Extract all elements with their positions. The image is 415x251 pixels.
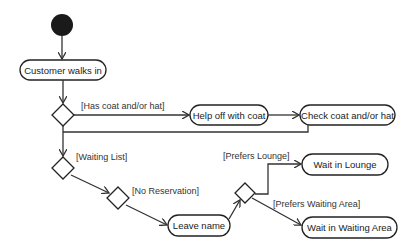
activity-label: Customer walks in — [24, 65, 102, 76]
decision-node-waiting-list — [52, 157, 74, 179]
activity-leave-name: Leave name — [168, 215, 230, 236]
edge-decision-2-to-decision-3 — [71, 175, 109, 193]
activity-label: Wait in Waiting Area — [307, 222, 393, 233]
edge-prefers-lounge — [255, 164, 301, 194]
activity-help-off-with-coat: Help off with coat — [190, 105, 268, 125]
guard-no-reservation: [No Reservation] — [132, 186, 199, 196]
activity-label: Leave name — [173, 220, 225, 231]
edge-decision-3-to-leave-name — [126, 205, 167, 225]
activity-customer-walks-in: Customer walks in — [20, 60, 106, 80]
edge-leave-name-to-decision-4 — [229, 200, 240, 219]
decision-node-preference — [235, 183, 255, 203]
guard-waiting-list: [Waiting List] — [76, 152, 127, 162]
decision-node-reservation — [107, 187, 129, 209]
guard-prefers-lounge: [Prefers Lounge] — [223, 151, 290, 161]
activity-diagram: Customer walks in [Has coat and/or hat] … — [0, 0, 415, 251]
activity-label: Check coat and/or hat — [301, 110, 394, 121]
start-node — [51, 14, 73, 36]
guard-has-coat: [Has coat and/or hat] — [81, 101, 165, 111]
activity-label: Help off with coat — [193, 110, 266, 121]
edge-check-return — [63, 125, 308, 132]
decision-node-coat — [52, 104, 74, 126]
guard-prefers-waiting-area: [Prefers Waiting Area] — [273, 199, 360, 209]
activity-wait-in-lounge: Wait in Lounge — [302, 154, 388, 175]
activity-label: Wait in Lounge — [313, 159, 376, 170]
activity-wait-in-waiting-area: Wait in Waiting Area — [302, 217, 397, 238]
activity-check-coat: Check coat and/or hat — [300, 105, 395, 125]
